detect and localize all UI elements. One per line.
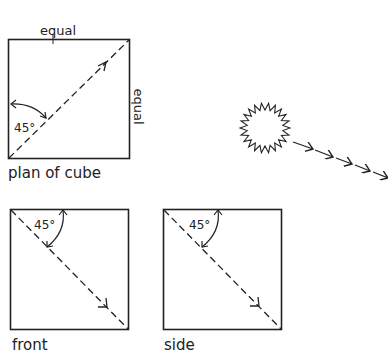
side-diagonal-ray xyxy=(164,210,281,329)
plan-side-equal-label: equal xyxy=(132,88,145,124)
plan-of-cube-label: plan of cube xyxy=(8,166,101,181)
plan-top-equal-label: equal xyxy=(40,24,76,37)
side-view xyxy=(164,210,282,330)
plan-diagonal-ray xyxy=(9,40,129,158)
sunlight-cube-diagram: equal equal 45° plan of cube 45° front 4… xyxy=(0,0,388,361)
side-label: side xyxy=(164,338,195,353)
sun xyxy=(240,103,290,152)
plan-of-cube xyxy=(9,34,130,159)
front-view xyxy=(11,210,129,330)
front-diagonal-ray xyxy=(11,210,128,329)
side-angle-label: 45° xyxy=(189,219,210,231)
sun-rays xyxy=(293,142,388,178)
sun-icon xyxy=(240,103,290,152)
front-label: front xyxy=(12,338,48,353)
front-angle-label: 45° xyxy=(34,219,55,231)
plan-angle-label: 45° xyxy=(14,122,35,134)
